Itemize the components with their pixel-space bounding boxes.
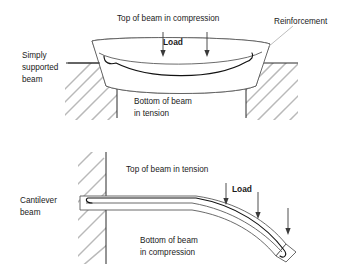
top-bottom-tension-label-line1: Bottom of beam xyxy=(134,97,192,106)
beam-bending-figure: Top of beam in compression Load Simply s… xyxy=(0,0,354,271)
simply-supported-label-line2: supported xyxy=(22,63,59,72)
cantilever-load-arrow-1 xyxy=(223,183,228,205)
top-bottom-tension-label-line2: in tension xyxy=(134,109,169,118)
cantilever-beam-body xyxy=(80,196,286,256)
diagram-canvas: Top of beam in compression Load Simply s… xyxy=(0,0,354,271)
top-load-label: Load xyxy=(163,37,183,47)
reinforcement-label: Reinforcement xyxy=(274,17,328,26)
cantilever-label-line1: Cantilever xyxy=(20,196,57,205)
cantilever-bottom-compression-label-line1: Bottom of beam xyxy=(140,236,198,245)
reinforcement-leader-line xyxy=(268,26,293,47)
cantilever-load-arrow-3 xyxy=(285,208,290,235)
top-compression-label: Top of beam in compression xyxy=(117,14,220,23)
cantilever-load-arrow-2 xyxy=(255,192,260,219)
simply-supported-label-line3: beam xyxy=(22,75,43,84)
cantilever-top-tension-label: Top of beam in tension xyxy=(126,165,209,174)
cantilever-bottom-compression-label-line2: in compression xyxy=(140,248,196,257)
cantilever-load-label: Load xyxy=(232,184,252,194)
simply-supported-group xyxy=(58,26,315,140)
simply-supported-label-line1: Simply xyxy=(22,51,47,60)
cantilever-label-line2: beam xyxy=(20,208,41,217)
